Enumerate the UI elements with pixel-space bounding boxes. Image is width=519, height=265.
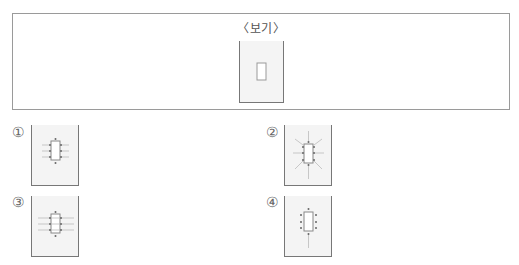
example-beaker [239,41,284,103]
option-2-beaker[interactable] [284,125,332,186]
option-3-beaker[interactable] [31,196,79,257]
option-2-number[interactable]: ② [266,124,279,140]
option-3-diagram-icon [32,196,80,257]
option-1-number[interactable]: ① [12,124,25,140]
option-4-number[interactable]: ④ [266,194,279,210]
option-2-diagram-icon [285,125,333,186]
option-4-diagram-icon [285,196,333,257]
example-box: 〈보기〉 [12,13,510,110]
option-4-beaker[interactable] [284,196,332,257]
option-1-beaker[interactable] [31,125,79,186]
option-1-diagram-icon [32,125,80,186]
option-3-number[interactable]: ③ [12,194,25,210]
example-object-icon [240,41,285,103]
example-title: 〈보기〉 [13,19,509,36]
